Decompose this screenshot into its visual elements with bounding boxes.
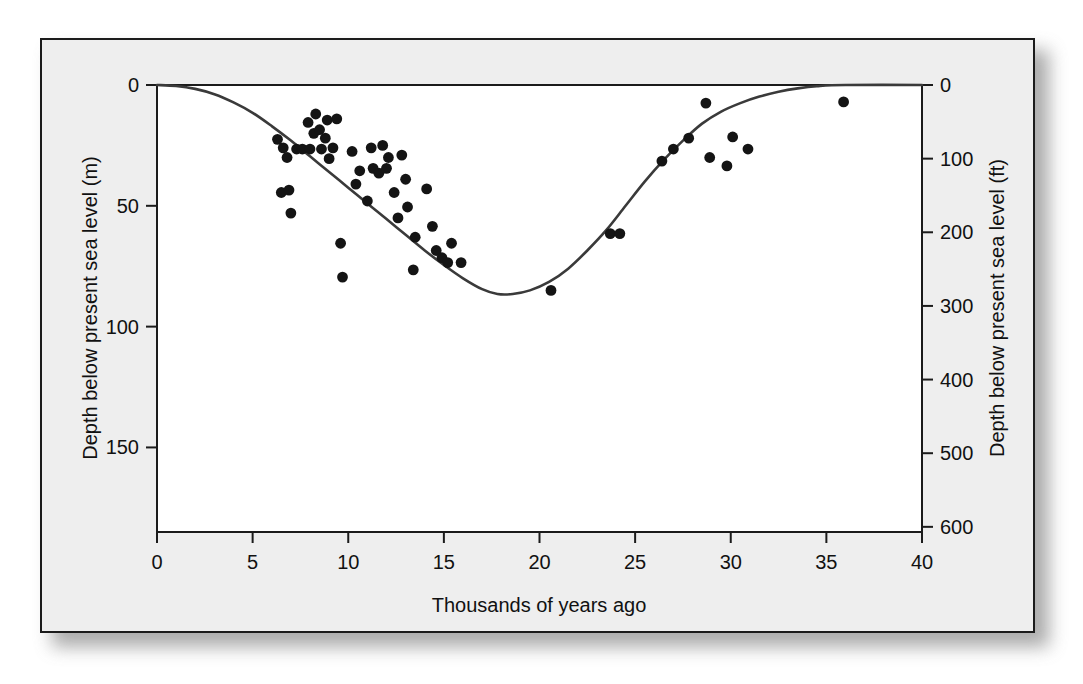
- y-axis-left-tick-label: 0: [128, 75, 139, 95]
- scatter-point: [546, 285, 557, 296]
- y-axis-right-tick-label: 300: [940, 296, 973, 316]
- y-axis-left-ticks: [146, 85, 157, 447]
- x-axis-tick-label: 20: [528, 552, 550, 572]
- x-axis-tick-label: 10: [337, 552, 359, 572]
- scatter-point: [354, 165, 365, 176]
- scatter-point: [743, 144, 754, 155]
- scatter-point: [442, 257, 453, 268]
- y-axis-right-tick-label: 600: [940, 517, 973, 537]
- y-axis-left-tick-label: 150: [106, 437, 139, 457]
- scatter-point: [351, 179, 362, 190]
- scatter-point: [393, 212, 404, 223]
- scatter-point: [605, 228, 616, 239]
- scatter-point: [400, 174, 411, 185]
- scatter-point: [396, 150, 407, 161]
- x-axis-tick-label: 0: [151, 552, 162, 572]
- scatter-point: [362, 196, 373, 207]
- x-axis-title: Thousands of years ago: [432, 595, 647, 615]
- y-axis-right-title: Depth below present sea level (ft): [987, 159, 1007, 457]
- scatter-point: [381, 163, 392, 174]
- plot-stage: 050100150 0100200300400500600 0510152025…: [42, 40, 1037, 635]
- scatter-point: [727, 132, 738, 143]
- scatter-point: [335, 238, 346, 249]
- figure-page: 050100150 0100200300400500600 0510152025…: [0, 0, 1083, 684]
- scatter-point: [328, 142, 339, 153]
- y-axis-right-tick-label: 100: [940, 149, 973, 169]
- y-axis-right-tick-label: 200: [940, 222, 973, 242]
- scatter-point: [704, 152, 715, 163]
- x-axis-ticks: [157, 532, 922, 543]
- y-axis-left-tick-label: 100: [106, 317, 139, 337]
- y-axis-right-tick-label: 0: [940, 75, 951, 95]
- y-axis-right-tick-label: 500: [940, 443, 973, 463]
- scatter-point: [389, 187, 400, 198]
- scatter-point: [421, 184, 432, 195]
- scatter-point: [310, 109, 321, 120]
- scatter-point: [305, 144, 316, 155]
- plot-area-background: [157, 85, 922, 532]
- x-axis-tick-label: 40: [911, 552, 933, 572]
- scatter-point: [320, 133, 331, 144]
- scatter-point: [324, 153, 335, 164]
- y-axis-right-tick-label: 400: [940, 370, 973, 390]
- scatter-point: [322, 115, 333, 126]
- scatter-point: [410, 232, 421, 243]
- scatter-point: [683, 133, 694, 144]
- scatter-point: [446, 238, 457, 249]
- y-axis-left-title: Depth below present sea level (m): [80, 156, 100, 459]
- x-axis-tick-label: 25: [624, 552, 646, 572]
- sea-level-scatter-chart: [42, 40, 1037, 635]
- y-axis-left-tick-label: 50: [117, 196, 139, 216]
- scatter-point: [456, 257, 467, 268]
- scatter-point: [700, 98, 711, 109]
- figure-frame: 050100150 0100200300400500600 0510152025…: [40, 38, 1035, 633]
- scatter-point: [316, 144, 327, 155]
- scatter-point: [284, 185, 295, 196]
- x-axis-tick-label: 5: [247, 552, 258, 572]
- scatter-point: [377, 140, 388, 151]
- scatter-point: [722, 161, 733, 172]
- scatter-point: [402, 202, 413, 213]
- scatter-point: [427, 221, 438, 232]
- y-axis-right-ticks: [922, 85, 933, 527]
- scatter-point: [366, 142, 377, 153]
- scatter-point: [614, 228, 625, 239]
- scatter-point: [657, 156, 668, 167]
- x-axis-tick-label: 15: [433, 552, 455, 572]
- scatter-point: [668, 144, 679, 155]
- scatter-point: [303, 117, 314, 128]
- scatter-point: [337, 272, 348, 283]
- scatter-point: [408, 264, 419, 275]
- scatter-point: [285, 208, 296, 219]
- scatter-point: [347, 146, 358, 157]
- scatter-point: [278, 142, 289, 153]
- scatter-point: [331, 113, 342, 124]
- scatter-point: [838, 97, 849, 108]
- x-axis-tick-label: 30: [720, 552, 742, 572]
- scatter-point: [282, 152, 293, 163]
- x-axis-tick-label: 35: [815, 552, 837, 572]
- scatter-point: [383, 152, 394, 163]
